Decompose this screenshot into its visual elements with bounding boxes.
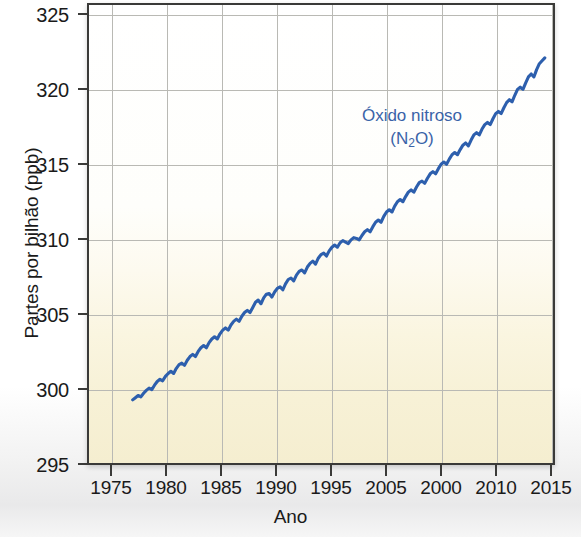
series-annotation: Óxido nitroso (N2O) — [317, 104, 507, 155]
y-tick-mark — [78, 238, 89, 240]
annotation-formula-sub: 2 — [408, 136, 415, 150]
annotation-formula-post: O) — [415, 129, 434, 148]
y-tick-mark — [78, 163, 89, 165]
x-tick-label: 2015 — [519, 478, 581, 498]
y-tick-mark — [78, 388, 89, 390]
x-tick-mark — [385, 465, 387, 476]
x-tick-mark — [110, 465, 112, 476]
y-tick-mark — [78, 313, 89, 315]
x-tick-mark — [220, 465, 222, 476]
x-tick-mark — [330, 465, 332, 476]
y-tick-label: 295 — [9, 455, 69, 475]
x-tick-mark — [275, 465, 277, 476]
y-axis-title: Partes por bilhão (ppb) — [21, 63, 43, 423]
annotation-formula-pre: (N — [390, 129, 408, 148]
data-series-svg — [89, 5, 553, 463]
y-tick-label: 325 — [9, 5, 69, 25]
chart-figure: Óxido nitroso (N2O) 325 320 315 310 305 … — [0, 0, 581, 537]
x-tick-mark — [495, 465, 497, 476]
x-tick-mark — [550, 465, 552, 476]
x-axis-title: Ano — [0, 506, 581, 528]
y-tick-mark — [78, 88, 89, 90]
y-tick-mark — [78, 463, 89, 465]
plot-area: Óxido nitroso (N2O) — [87, 3, 555, 465]
x-tick-mark — [165, 465, 167, 476]
annotation-line-2: (N2O) — [390, 129, 434, 148]
y-tick-mark — [78, 13, 89, 15]
x-tick-mark — [440, 465, 442, 476]
annotation-line-1: Óxido nitroso — [362, 106, 462, 125]
